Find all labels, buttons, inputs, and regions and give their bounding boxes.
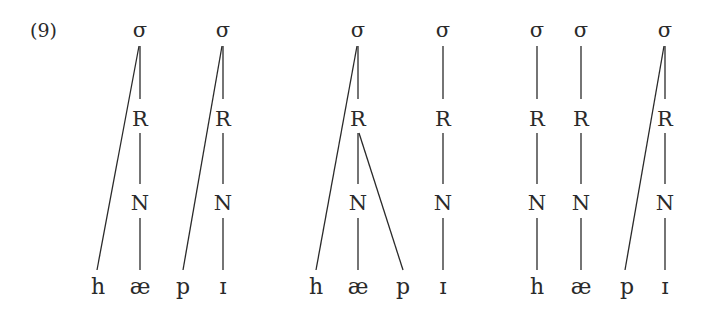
rime-node: R (132, 107, 149, 131)
rime-node: R (573, 107, 590, 131)
nucleus-node: N (572, 191, 590, 215)
nucleus-node: N (214, 191, 232, 215)
nucleus-node: N (528, 191, 546, 215)
rime-node: R (435, 107, 452, 131)
segment-small-i: ɪ (439, 274, 446, 299)
sigma-node: σ (574, 18, 588, 42)
example-number: (9) (30, 19, 57, 41)
segment-small-i: ɪ (219, 274, 226, 299)
sigma-node: σ (530, 18, 544, 42)
sigma-node: σ (436, 18, 450, 42)
rime-node: R (215, 107, 232, 131)
rime-node: R (657, 107, 674, 131)
sigma-node: σ (351, 18, 365, 42)
segment-h: h (309, 274, 323, 299)
rime-node: R (350, 107, 367, 131)
tree-2: σ R N σ R N h æ p ɪ (309, 18, 452, 299)
tree-1: σ R N σ R N h æ p ɪ (91, 18, 232, 299)
nucleus-node: N (131, 191, 149, 215)
segment-p: p (620, 274, 634, 299)
syllable-structure-diagram: (9) σ R N σ R N h æ p ɪ σ R N σ (0, 0, 709, 321)
segment-ae: æ (130, 274, 151, 299)
segment-h: h (91, 274, 105, 299)
segment-ae: æ (571, 274, 592, 299)
segment-h: h (530, 274, 544, 299)
onset-branch (316, 46, 357, 270)
onset-branch (97, 46, 139, 270)
rime-node: R (529, 107, 546, 131)
segment-p: p (176, 274, 190, 299)
onset-branch (183, 46, 222, 270)
nucleus-node: N (349, 191, 367, 215)
sigma-node: σ (216, 18, 230, 42)
nucleus-node: N (656, 191, 674, 215)
segment-small-i: ɪ (661, 274, 668, 299)
sigma-node: σ (658, 18, 672, 42)
nucleus-node: N (434, 191, 452, 215)
sigma-node: σ (133, 18, 147, 42)
onset-branch (625, 46, 664, 270)
tree-3: σ R N σ R N σ R N h æ p ɪ (528, 18, 674, 299)
segment-p: p (396, 274, 410, 299)
segment-ae: æ (348, 274, 369, 299)
